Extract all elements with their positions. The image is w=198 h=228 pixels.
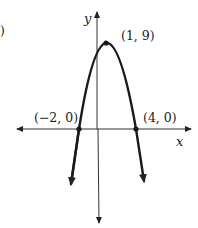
right-intercept-label: (4, 0) bbox=[143, 110, 177, 125]
left-intercept-label: (−2, 0) bbox=[34, 110, 78, 125]
parabola-curve bbox=[71, 43, 144, 184]
y-axis-negative bbox=[98, 129, 99, 223]
parabola-left-tail bbox=[71, 129, 79, 184]
right-intercept-point bbox=[133, 126, 138, 131]
vertex-point bbox=[103, 40, 108, 45]
parabola-graph: y x (1, 9) (−2, 0) (4, 0) ) bbox=[0, 0, 198, 228]
x-axis-label: x bbox=[176, 134, 184, 149]
vertex-label: (1, 9) bbox=[121, 28, 155, 43]
left-intercept-point bbox=[76, 126, 81, 131]
edge-fragment: ) bbox=[0, 23, 5, 38]
y-axis-label: y bbox=[83, 11, 92, 26]
